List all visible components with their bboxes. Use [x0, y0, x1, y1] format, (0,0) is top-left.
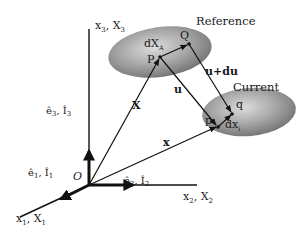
point-Q-label: Q [180, 29, 189, 42]
e1-basis-label: ê1, Î1 [28, 167, 53, 180]
point-p-label: p [205, 114, 212, 127]
current-label: Current [233, 80, 279, 94]
point-P-label: P [147, 53, 155, 66]
e1-basis-arrow [61, 185, 89, 199]
dx-vector-label: dxi [225, 118, 240, 133]
reference-label: Reference [196, 14, 256, 28]
point-p-dot [216, 125, 220, 129]
origin-label: O [73, 170, 82, 183]
x-position-vector [89, 127, 216, 185]
x3-axis-label: x3, X3 [95, 19, 125, 34]
x2-axis-label: x2, X2 [183, 190, 213, 205]
u-du-vector-label: u+du [205, 65, 238, 78]
X-position-vector [89, 59, 159, 185]
X-vector-label: X [132, 99, 141, 112]
u-vector-label: u [174, 83, 182, 96]
point-P-dot [158, 55, 162, 59]
continuum-kinematics-diagram: Reference Current x3, X3 x2, X2 x1, X1 ê… [0, 0, 301, 234]
e3-basis-label: ê3, Î3 [46, 105, 71, 118]
x1-axis-label: x1, X1 [16, 212, 46, 227]
point-q-label: q [236, 98, 243, 111]
point-Q-dot [187, 42, 191, 46]
point-q-dot [230, 112, 234, 116]
x-vector-label: x [163, 136, 170, 149]
